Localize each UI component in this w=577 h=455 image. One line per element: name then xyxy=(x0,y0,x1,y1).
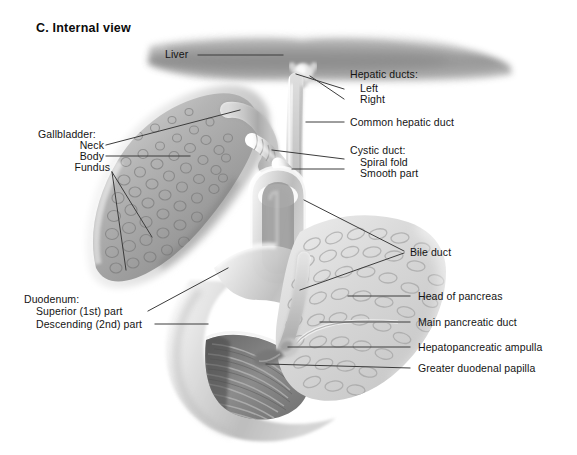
label-head-of-pancreas: Head of pancreas xyxy=(418,290,503,303)
label-duodenum-heading: Duodenum: xyxy=(24,293,79,306)
anatomy-figure-page: C. Internal view Liver Hepatic ducts: Le… xyxy=(0,0,577,455)
label-duodenum-descending: Descending (2nd) part xyxy=(36,318,142,331)
label-bile-duct: Bile duct xyxy=(410,246,451,259)
label-smooth-part: Smooth part xyxy=(360,167,418,180)
label-gallbladder-fundus: Fundus xyxy=(44,161,110,174)
label-cystic-duct-heading: Cystic duct: xyxy=(350,144,405,157)
anatomy-illustration xyxy=(0,0,577,455)
label-hepatopancreatic-ampulla: Hepatopancreatic ampulla xyxy=(418,341,542,354)
label-duodenum-superior: Superior (1st) part xyxy=(36,305,123,318)
figure-title: C. Internal view xyxy=(36,21,131,35)
label-hepatic-duct-right: Right xyxy=(360,93,385,106)
label-liver: Liver xyxy=(165,48,188,61)
label-greater-duodenal-papilla: Greater duodenal papilla xyxy=(418,362,535,375)
label-main-pancreatic-duct: Main pancreatic duct xyxy=(418,316,517,329)
label-common-hepatic-duct: Common hepatic duct xyxy=(350,116,454,129)
liver-structure xyxy=(148,33,512,85)
label-hepatic-ducts-heading: Hepatic ducts: xyxy=(350,68,418,81)
